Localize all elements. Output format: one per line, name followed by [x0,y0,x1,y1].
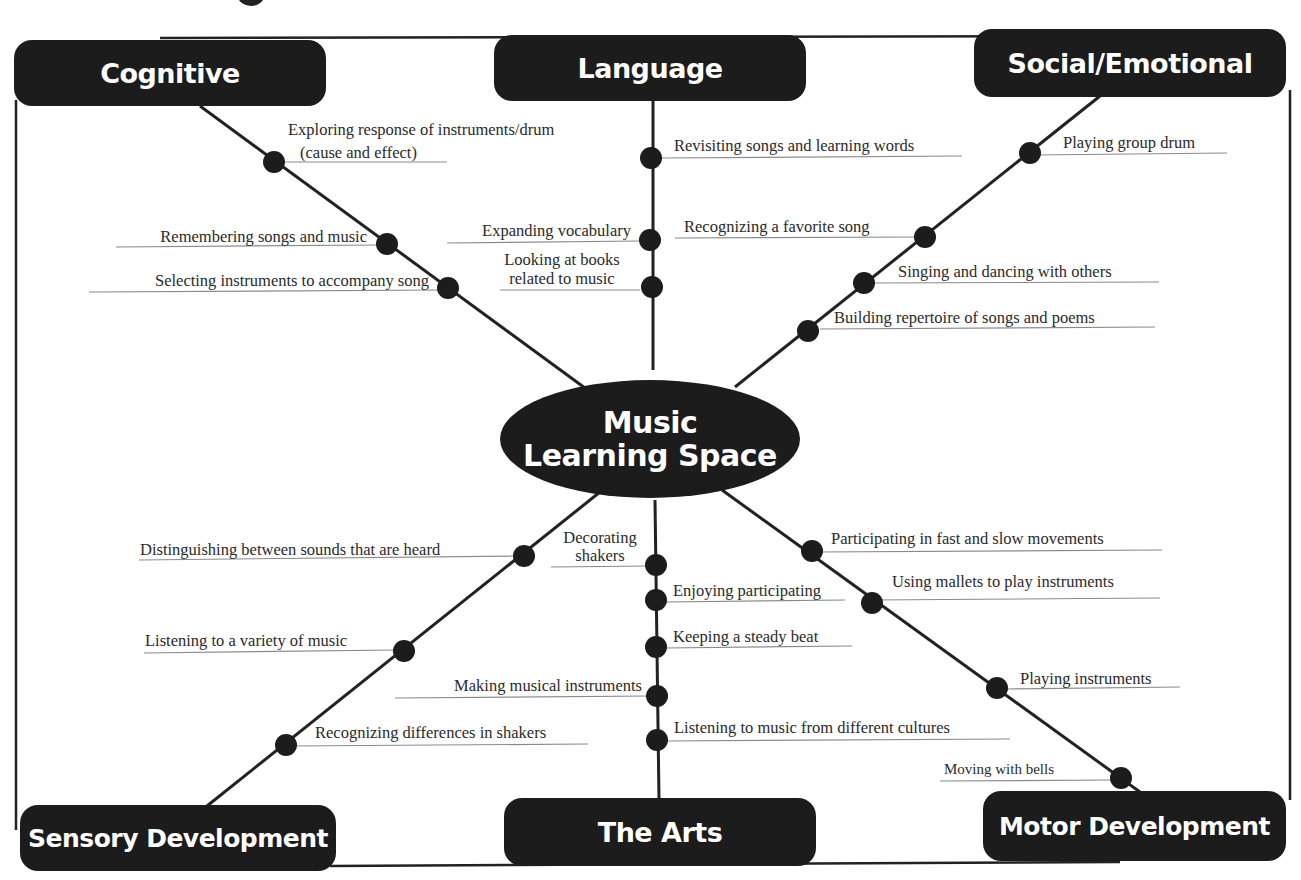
social-item-3: Singing and dancing with others [898,263,1112,280]
sensory-item-1: Distinguishing between sounds that are h… [140,541,440,558]
category-label: Language [577,53,722,84]
center-title-line2: Learning Space [523,439,777,472]
motor-item-2: Using mallets to play instruments [892,573,1114,590]
sensory-item-2: Listening to a variety of music [145,632,347,649]
social-item-2: Recognizing a favorite song [684,218,870,235]
cognitive-item-2: Remembering songs and music [160,228,367,245]
language-item-3: Looking at books [492,251,632,268]
cognitive-item-1-sub: (cause and effect) [300,144,417,161]
language-item-1: Revisiting songs and learning words [674,137,914,154]
category-social-emotional: Social/Emotional [974,29,1286,97]
social-item-1: Playing group drum [1063,134,1195,151]
language-item-3-sub: related to music [492,270,632,287]
arts-item-5: Listening to music from different cultur… [674,719,950,736]
category-label: Motor Development [999,812,1270,841]
category-label: Sensory Development [28,824,328,853]
mind-map: Cognitive Language Social/Emotional Sens… [0,0,1301,880]
arts-item-4: Making musical instruments [454,677,642,694]
category-label: The Arts [598,817,723,848]
category-motor-development: Motor Development [983,791,1286,861]
center-topic: Music Learning Space [500,380,800,498]
motor-item-4: Moving with bells [944,762,1054,778]
cognitive-item-1: Exploring response of instruments/drum [288,121,554,138]
social-item-4: Building repertoire of songs and poems [834,309,1095,326]
motor-item-3: Playing instruments [1020,670,1152,687]
center-title-line1: Music [603,406,698,439]
category-label: Cognitive [100,58,240,89]
category-language: Language [494,35,806,101]
cognitive-item-3: Selecting instruments to accompany song [155,272,429,289]
language-item-2: Expanding vocabulary [482,222,631,239]
motor-item-1: Participating in fast and slow movements [831,530,1104,547]
category-the-arts: The Arts [504,798,816,866]
arts-item-1-sub: shakers [552,547,648,564]
arts-item-2: Enjoying participating [673,582,821,599]
category-cognitive: Cognitive [14,40,326,106]
category-label: Social/Emotional [1007,48,1252,79]
arts-item-3: Keeping a steady beat [673,628,818,645]
category-sensory-development: Sensory Development [20,805,336,871]
sensory-item-3: Recognizing differences in shakers [315,724,546,741]
arts-item-1: Decorating [552,529,648,546]
